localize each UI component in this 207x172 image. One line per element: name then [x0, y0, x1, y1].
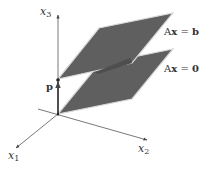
x2-axis-label: x2 — [138, 143, 149, 156]
x3-axis-label: x3 — [40, 6, 51, 19]
x1-axis-label: x1 — [8, 150, 19, 163]
x3-sub: 3 — [46, 10, 51, 19]
x2-sub: 2 — [144, 147, 149, 156]
label-ax-equals-0: Ax = 0 — [164, 64, 199, 74]
point-p-dot — [56, 78, 60, 82]
p-text: p — [46, 81, 53, 92]
x1-axis — [16, 114, 58, 148]
origin-dot — [57, 113, 59, 115]
label-p: p — [46, 82, 53, 92]
eq-0-op: = — [177, 63, 192, 74]
x1-sub: 1 — [14, 154, 19, 163]
eq-b-op: = — [177, 26, 192, 37]
x2-axis — [38, 109, 147, 140]
label-ax-equals-b: Ax = b — [164, 27, 199, 37]
eq-b-rhs: b — [192, 26, 199, 37]
eq-0-rhs: 0 — [192, 63, 199, 74]
